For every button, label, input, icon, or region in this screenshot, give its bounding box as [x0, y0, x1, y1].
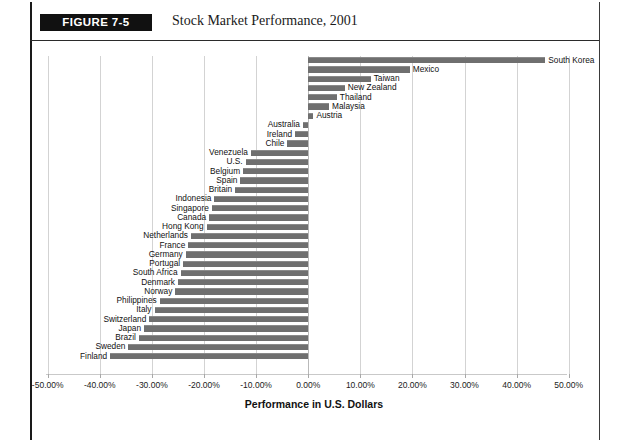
gridline: [100, 56, 101, 374]
bar: [144, 325, 308, 331]
bar-label: Italy: [136, 305, 151, 313]
bar-label: Hong Kong: [162, 222, 204, 230]
bar-label: Netherlands: [143, 231, 188, 239]
x-axis-tick: [517, 374, 518, 378]
bar: [110, 353, 308, 359]
x-axis-tick: [152, 374, 153, 378]
x-axis-tick-label: -40.00%: [84, 380, 116, 390]
bar-label: Spain: [216, 176, 237, 184]
x-axis-tick-label: 30.00%: [450, 380, 479, 390]
bar-label: New Zealand: [348, 83, 397, 91]
bar-label: Singapore: [171, 204, 209, 212]
x-axis-tick-label: 0.00%: [296, 380, 320, 390]
bar: [308, 103, 329, 109]
bar-label: U.S.: [227, 157, 243, 165]
x-axis-line: [46, 374, 567, 375]
bar-label: Brazil: [115, 333, 136, 341]
bar: [308, 85, 344, 91]
bar-label: Indonesia: [175, 194, 211, 202]
bar: [191, 233, 308, 239]
bar-label: Britain: [209, 185, 233, 193]
x-axis-tick-label: 40.00%: [502, 380, 531, 390]
bar-label: Germany: [149, 250, 183, 258]
bar-label: Norway: [144, 287, 172, 295]
x-axis-tick-label: -30.00%: [136, 380, 168, 390]
figure-title: Stock Market Performance, 2001: [172, 13, 358, 29]
gridline: [517, 56, 518, 374]
bar: [308, 66, 410, 72]
bar-label: South Africa: [133, 268, 178, 276]
bar: [183, 261, 308, 267]
bar-label: Australia: [268, 120, 300, 128]
bar-label: Ireland: [267, 130, 292, 138]
x-axis-tick: [204, 374, 205, 378]
bar-label: Venezuela: [209, 148, 248, 156]
bar-label: Denmark: [141, 278, 175, 286]
bar: [207, 224, 309, 230]
gridline: [48, 56, 49, 374]
x-axis-tick: [465, 374, 466, 378]
bar: [128, 344, 308, 350]
bar-label: Japan: [118, 324, 141, 332]
bar-label: Philippines: [117, 296, 157, 304]
bar: [181, 270, 309, 276]
bar: [308, 94, 337, 100]
bar: [214, 196, 308, 202]
figure-header: FIGURE 7-5 Stock Market Performance, 200…: [32, 14, 598, 38]
bar: [240, 177, 308, 183]
x-axis-tick-label: 20.00%: [398, 380, 427, 390]
gridline: [465, 56, 466, 374]
bar: [155, 307, 309, 313]
bar-label: Sweden: [95, 342, 125, 350]
x-axis-tick: [412, 374, 413, 378]
bar: [175, 288, 308, 294]
x-axis-tick-label: 50.00%: [554, 380, 583, 390]
bar: [308, 76, 371, 82]
x-axis-tick: [256, 374, 257, 378]
bar: [149, 316, 308, 322]
x-axis-tick-label: -20.00%: [188, 380, 220, 390]
bar-label: France: [160, 241, 186, 249]
bar: [308, 113, 313, 119]
bar-label: Malaysia: [332, 102, 365, 110]
bar: [287, 140, 308, 146]
bar-label: Canada: [177, 213, 206, 221]
bar-label: Belgium: [210, 167, 240, 175]
x-axis-tick: [100, 374, 101, 378]
figure-number-badge: FIGURE 7-5: [40, 14, 152, 31]
bar: [251, 150, 308, 156]
bar: [209, 214, 308, 220]
bar-label: Taiwan: [374, 74, 400, 82]
gridline: [412, 56, 413, 374]
x-axis-tick-label: -50.00%: [32, 380, 64, 390]
header-divider: [30, 40, 599, 41]
bar: [186, 251, 308, 257]
x-axis-tick: [569, 374, 570, 378]
x-axis-tick: [308, 374, 309, 378]
bar: [308, 57, 545, 63]
bar-label: Finland: [80, 352, 107, 360]
bar-label: Thailand: [340, 93, 372, 101]
bar-label: Switzerland: [103, 315, 146, 323]
bar: [212, 205, 308, 211]
x-axis-title: Performance in U.S. Dollars: [0, 398, 628, 410]
x-axis-tick-label: 10.00%: [346, 380, 375, 390]
bar: [243, 168, 308, 174]
bar-label: Portugal: [149, 259, 180, 267]
bar-label: Austria: [316, 111, 342, 119]
bar: [139, 335, 308, 341]
bar: [188, 242, 308, 248]
bar-label: South Korea: [548, 56, 594, 64]
bar: [246, 159, 309, 165]
bar: [178, 279, 308, 285]
x-axis-tick: [48, 374, 49, 378]
bar: [295, 131, 308, 137]
x-axis-tick-label: -10.00%: [240, 380, 272, 390]
bar: [303, 122, 308, 128]
x-axis-tick: [360, 374, 361, 378]
bar: [235, 187, 308, 193]
bar: [160, 298, 308, 304]
bar-label: Chile: [265, 139, 284, 147]
bar-label: Mexico: [413, 65, 439, 73]
gridline: [569, 56, 570, 374]
